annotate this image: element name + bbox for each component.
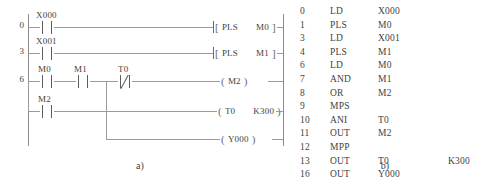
instruction-mnemonic: OR [330,88,344,98]
instruction-row: 11 OUT M2 [300,128,493,142]
rung-step-number-6: 6 [12,74,24,84]
contact-t0-normally-closed [118,75,132,88]
rung-wire-0-tail [277,27,283,28]
contact-x000-normally-open [40,21,54,34]
box-left-edge [213,21,214,33]
instruction-mnemonic: PLS [330,20,347,30]
rung-wire-m2-b [54,111,217,112]
rung-step-number-0: 0 [12,20,24,30]
pls-operand-label-0: M0 [256,22,269,32]
rung-wire-6-c [90,81,118,82]
contact-label-m2: M2 [38,94,51,104]
instruction-step: 8 [300,88,316,98]
instruction-row: 12 MPP [300,142,493,156]
coil-operand-label-y000: Y000 [228,134,249,144]
coil-open-paren: ( [221,76,225,87]
contact-label-m1: M1 [74,64,87,74]
instruction-step: 16 [300,169,316,179]
instruction-operand: M2 [378,128,392,138]
instruction-operand: M0 [378,20,392,30]
instruction-step: 3 [300,33,316,43]
instruction-row: 16 OUT Y000 [300,169,493,183]
instruction-row: 6 LD M0 [300,60,493,74]
instruction-mnemonic: LD [330,6,343,16]
normally-closed-slash [120,75,128,90]
instruction-step: 7 [300,74,316,84]
right-power-rail [283,14,284,146]
instruction-operand: M1 [378,74,392,84]
pls-instruction-label-1: PLS [222,48,238,58]
box-left-edge [213,47,214,59]
instruction-mnemonic: OUT [330,128,350,138]
instruction-box-pls-m0: [ PLS M0 ] [213,20,277,34]
instruction-row: 0 LD X000 [300,6,493,20]
figure-caption-b: b) [355,160,415,171]
coil-close-paren: ) [252,134,256,145]
instruction-box-pls-m1: [ PLS M1 ] [213,46,277,60]
instruction-mnemonic: PLS [330,47,347,57]
contact-m2-normally-open [40,105,54,118]
instruction-operand: X000 [378,6,400,16]
coil-t0-timer: ( T0 K300 ) [217,104,282,118]
contact-m1-normally-open [76,75,90,88]
coil-operand-label-t0: T0 [225,106,235,116]
instruction-mnemonic: MPS [330,101,350,111]
box-open-bracket: [ [215,22,219,33]
rung-wire-y000-tail [272,139,283,140]
contact-label-x000: X000 [36,10,57,20]
rung-wire-y000 [106,139,220,140]
pls-instruction-label-0: PLS [222,22,238,32]
coil-operand-label-m2: M2 [228,76,241,86]
contact-label-m0: M0 [38,64,51,74]
contact-label-x001: X001 [36,36,57,46]
coil-open-paren: ( [218,106,222,117]
figure-caption-a: a) [110,160,170,171]
instruction-operand: M0 [378,60,392,70]
timer-preset-label-k300: K300 [253,106,274,116]
instruction-row: 9 MPS [300,101,493,115]
rung-wire-6-a [28,81,40,82]
rung-wire-m2-a [28,111,40,112]
instruction-operand: M1 [378,47,392,57]
coil-open-paren: ( [221,134,225,145]
instruction-operand: M2 [378,88,392,98]
instruction-step: 10 [300,115,316,125]
rung-wire-0-right [54,27,213,28]
instruction-step: 12 [300,142,316,152]
instruction-step: 11 [300,128,316,138]
instruction-row: 8 OR M2 [300,88,493,102]
rung-wire-6-d [132,81,220,82]
branch-link-or-m2 [28,81,29,112]
instruction-mnemonic: MPP [330,142,350,152]
rung-wire-3-right [54,53,213,54]
instruction-operand: T0 [378,115,389,125]
instruction-row: 7 AND M1 [300,74,493,88]
rung-wire-m2-tail [276,111,283,112]
rung-wire-6-b [54,81,76,82]
instruction-mnemonic: AND [330,74,351,84]
box-open-bracket: [ [215,48,219,59]
rung-wire-3-left [28,53,40,54]
coil-m2: ( M2 ) [220,74,249,88]
instruction-mnemonic: OUT [330,156,350,166]
contact-label-t0: T0 [118,64,128,74]
instruction-step: 6 [300,60,316,70]
instruction-step: 9 [300,101,316,111]
instruction-row: 4 PLS M1 [300,47,493,61]
instruction-step: 1 [300,20,316,30]
instruction-operand: X001 [378,33,400,43]
contact-m0-normally-open [40,75,54,88]
instruction-row: 10 ANI T0 [300,115,493,129]
instruction-mnemonic: OUT [330,169,350,179]
box-close-bracket: ] [272,22,276,33]
instruction-mnemonic: LD [330,33,343,43]
rung-wire-3-tail [277,53,283,54]
branch-link-mps-stack [106,81,107,140]
coil-y000: ( Y000 ) [220,132,257,146]
rung-wire-6-tail [268,81,283,82]
pls-operand-label-1: M1 [256,48,269,58]
left-power-rail [28,14,29,146]
rung-wire-0-left [28,27,40,28]
instruction-mnemonic: LD [330,60,343,70]
instruction-step: 4 [300,47,316,57]
